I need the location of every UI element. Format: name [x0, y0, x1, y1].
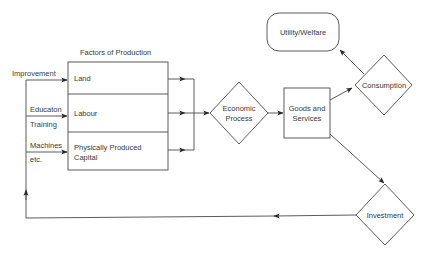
goods-services-box — [284, 88, 330, 138]
arrow-to-consumption — [330, 88, 352, 100]
economic-flow-diagram: Factors of Production Land Labour Physic… — [0, 0, 427, 258]
factor-labour: Labour — [74, 109, 98, 118]
consumption-label: Consumption — [362, 81, 406, 90]
investment-node: Investment — [356, 184, 414, 245]
consumption-node: Consumption — [355, 55, 412, 115]
label-improvement: Improvement — [12, 69, 57, 78]
utility-welfare-node: Utility/Welfare — [267, 13, 339, 51]
label-etc: etc. — [30, 155, 42, 164]
factor-capital-line2: Capital — [74, 153, 98, 162]
arrow-to-investment — [330, 134, 384, 183]
label-training: Training — [30, 120, 57, 129]
feedback-bottom-line — [26, 216, 276, 218]
economic-process-line1: Economic — [223, 104, 256, 113]
goods-services-line2: Services — [293, 114, 322, 123]
economic-process-node: Economic Process — [210, 82, 268, 144]
factor-capital-line1: Physically Produced — [74, 143, 142, 152]
investment-label: Investment — [367, 211, 405, 220]
utility-welfare-label: Utility/Welfare — [280, 28, 326, 37]
economic-process-diamond — [210, 82, 268, 144]
economic-process-line2: Process — [225, 114, 252, 123]
arrow-to-utility — [340, 50, 364, 74]
label-education: Educaton — [30, 105, 62, 114]
factor-output-connectors — [168, 79, 209, 150]
factors-box: Land Labour Physically Produced Capital — [68, 62, 168, 170]
label-machines: Machines — [30, 141, 62, 150]
feedback-inputs: Improvement Educaton Training Machines e… — [12, 69, 67, 218]
goods-services-node: Goods and Services — [284, 88, 330, 138]
arrow-investment-return — [274, 215, 356, 216]
goods-services-line1: Goods and — [289, 104, 326, 113]
factor-land: Land — [74, 74, 91, 83]
factors-of-production-title: Factors of Production — [80, 48, 151, 57]
